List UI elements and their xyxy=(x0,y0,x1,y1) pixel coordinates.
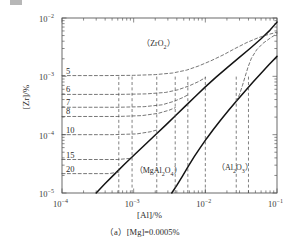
y-tick-label-10-2: 10−2 xyxy=(39,13,54,23)
page-artifact xyxy=(10,0,22,5)
x-tick-label-10-4: 10−4 xyxy=(53,198,68,208)
contour-label-8: 8 xyxy=(66,107,70,116)
y-tick-label-10-5: 10−5 xyxy=(39,188,54,198)
contour-label-5: 5 xyxy=(66,67,70,76)
curve-al2o3-dashed-branch xyxy=(236,34,277,102)
contour-label-6: 6 xyxy=(66,85,70,94)
region-al2o3: （Al2O3） xyxy=(217,164,253,174)
figure-caption: （a）[Mg]=0.0005% xyxy=(105,228,180,237)
x-tick-label-10-1: 10−1 xyxy=(268,198,283,208)
y-tick-label-10-3: 10−3 xyxy=(39,71,54,81)
curve-contour-7 xyxy=(62,95,188,107)
y-tick-label-10-4: 10−4 xyxy=(39,130,54,140)
contour-label-10: 10 xyxy=(66,126,75,135)
curve-contour-6 xyxy=(62,78,205,95)
x-axis-title: [Al]/% xyxy=(137,211,162,220)
chart-figure xyxy=(0,0,299,245)
contour-label-15: 15 xyxy=(66,151,75,160)
region-mgal2o4: （MgAl2O4） xyxy=(135,167,182,177)
y-axis-title: [Zr]/% xyxy=(21,75,31,119)
contour-label-7: 7 xyxy=(66,98,70,107)
x-tick-label-10-2: 10−2 xyxy=(196,198,211,208)
x-tick-label-10-3: 10−3 xyxy=(125,198,140,208)
region-zro2: （ZrO2） xyxy=(142,40,174,50)
curve-contour-10 xyxy=(62,130,157,135)
contour-label-20: 20 xyxy=(66,165,75,174)
